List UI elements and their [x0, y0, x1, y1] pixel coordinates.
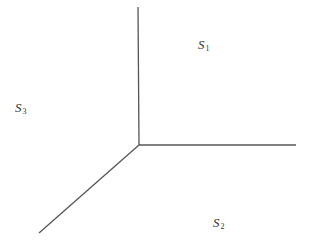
region-label-s3: S3: [15, 101, 27, 116]
region-symbol: S: [198, 37, 205, 52]
region-symbol: S: [213, 215, 220, 230]
region-label-s1: S1: [198, 38, 210, 53]
region-label-s2: S2: [213, 216, 225, 231]
ray-up: [138, 7, 139, 145]
region-subscript: 2: [221, 222, 225, 231]
diagram-canvas: S1 S3 S2: [0, 0, 311, 250]
region-subscript: 1: [206, 44, 210, 53]
ray-down-left: [39, 145, 139, 233]
region-symbol: S: [15, 100, 22, 115]
region-subscript: 3: [23, 107, 27, 116]
partition-lines: [0, 0, 311, 250]
